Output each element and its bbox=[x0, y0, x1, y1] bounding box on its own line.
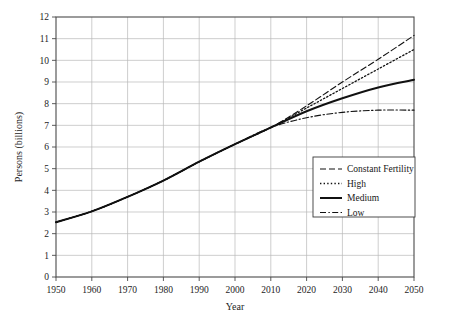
x-tick-label: 2050 bbox=[405, 285, 424, 295]
x-tick-label: 1970 bbox=[118, 285, 137, 295]
y-tick-label: 0 bbox=[44, 272, 49, 282]
y-tick-label: 4 bbox=[44, 186, 49, 196]
y-tick-label: 7 bbox=[44, 121, 49, 131]
x-tick-label: 1960 bbox=[82, 285, 101, 295]
y-tick-label: 9 bbox=[44, 77, 49, 87]
legend-label-low: Low bbox=[347, 208, 365, 218]
y-tick-label: 2 bbox=[44, 229, 49, 239]
legend-label-constant-fertility: Constant Fertility bbox=[347, 164, 414, 174]
x-tick-label: 1980 bbox=[154, 285, 173, 295]
y-tick-label: 3 bbox=[44, 207, 49, 217]
x-axis-title: Year bbox=[226, 301, 245, 312]
x-tick-label: 1990 bbox=[190, 285, 209, 295]
y-tick-label: 1 bbox=[44, 251, 49, 261]
legend-label-medium: Medium bbox=[347, 193, 380, 203]
y-axis-title: Persons (billions) bbox=[13, 112, 25, 182]
y-tick-label: 11 bbox=[40, 34, 49, 44]
x-tick-label: 2030 bbox=[333, 285, 352, 295]
y-tick-label: 12 bbox=[40, 12, 50, 22]
y-tick-label: 5 bbox=[44, 164, 49, 174]
x-tick-label: 1950 bbox=[47, 285, 66, 295]
chart-legend: Constant FertilityHighMediumLow bbox=[313, 157, 415, 218]
legend-label-high: High bbox=[347, 179, 366, 189]
chart-canvas: 0123456789101112 19501960197019801990200… bbox=[0, 0, 450, 324]
x-tick-label: 2000 bbox=[226, 285, 245, 295]
x-tick-label: 2040 bbox=[369, 285, 388, 295]
y-tick-label: 8 bbox=[44, 99, 49, 109]
population-projection-chart: 0123456789101112 19501960197019801990200… bbox=[0, 0, 450, 324]
y-tick-label: 10 bbox=[40, 56, 50, 66]
y-tick-label: 6 bbox=[44, 142, 49, 152]
x-tick-label: 2020 bbox=[297, 285, 316, 295]
x-tick-label: 2010 bbox=[261, 285, 280, 295]
